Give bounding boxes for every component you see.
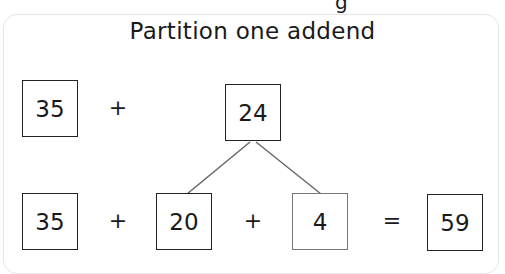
addend-a-box-row2: 35: [22, 193, 78, 250]
equals-sign: =: [377, 208, 407, 233]
addend-a-box: 35: [22, 80, 78, 137]
tens-part-box: 20: [156, 193, 212, 250]
plus-sign: +: [103, 208, 133, 233]
addend-b-box: 24: [225, 84, 281, 141]
ones-part-box: 4: [292, 193, 348, 250]
plus-sign: +: [238, 208, 268, 233]
sum-box: 59: [427, 194, 483, 251]
plus-sign: +: [103, 95, 133, 120]
